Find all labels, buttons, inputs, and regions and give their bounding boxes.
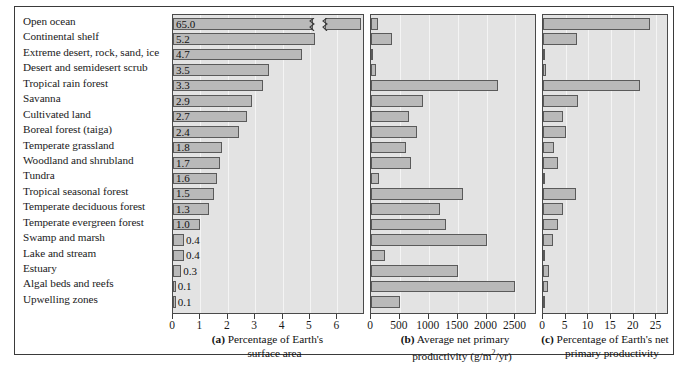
ecosystem-label: Woodland and shrubland	[15, 153, 170, 168]
bar-value-label: 65.0	[176, 19, 195, 31]
panel-b-caption-units-post: /yr)	[496, 350, 512, 362]
bar	[173, 281, 176, 293]
ecosystem-label: Boreal forest (taiga)	[15, 122, 170, 137]
gridline	[487, 15, 488, 313]
axis-tick-label: 2	[224, 319, 230, 332]
bar	[371, 234, 487, 246]
bar-value-label: 0.1	[178, 297, 192, 309]
axis-tick-label: 1	[197, 319, 203, 332]
bar-value-label: 2.7	[176, 111, 190, 123]
ecosystem-label-column: Open oceanContinental shelfExtreme deser…	[15, 14, 170, 307]
bar	[371, 33, 392, 45]
ecosystem-label: Savanna	[15, 91, 170, 106]
axis-tick-label: 1500	[445, 319, 468, 332]
ecosystem-label: Temperate grassland	[15, 138, 170, 153]
panel-a-caption: (a) Percentage of Earth's surface area	[165, 332, 370, 360]
bar-value-label: 1.0	[176, 219, 190, 231]
panel-b-caption-units-pre: productivity (g/m	[412, 350, 491, 362]
bar	[173, 296, 176, 308]
axis-tick-label: 500	[390, 319, 407, 332]
axis-tick-label: 4	[279, 319, 285, 332]
bar	[371, 173, 379, 185]
bar	[543, 111, 563, 123]
bar-value-label: 3.3	[176, 80, 190, 92]
bar-value-label: 1.5	[176, 188, 190, 200]
panel-a-caption-letter: (a)	[212, 333, 225, 345]
bar	[371, 203, 440, 215]
bar	[543, 219, 558, 231]
panel-a-surface-area: 65.05.24.73.53.32.92.72.41.81.71.61.51.3…	[172, 14, 364, 314]
panel-b-net-primary-productivity	[370, 14, 536, 314]
bar	[173, 33, 315, 45]
gridline	[515, 15, 516, 313]
axis-tick-label: 10	[582, 319, 594, 332]
bar-value-label: 3.5	[176, 65, 190, 77]
bar	[371, 126, 417, 138]
bar	[371, 95, 423, 107]
axis-break-zigzag-icon	[308, 18, 317, 31]
bar	[543, 296, 545, 308]
gridline	[458, 15, 459, 313]
ecosystem-label: Temperate deciduous forest	[15, 199, 170, 214]
bar	[543, 203, 563, 215]
bar-value-label: 1.6	[176, 173, 190, 185]
bar	[371, 49, 373, 61]
bar	[371, 142, 406, 154]
ecosystem-label: Tropical seasonal forest	[15, 184, 170, 199]
bar	[371, 219, 446, 231]
axis-tick-label: 5	[562, 319, 568, 332]
bar	[173, 265, 181, 277]
ecosystem-label: Lake and stream	[15, 246, 170, 261]
ecosystem-label: Tundra	[15, 168, 170, 183]
bar	[543, 173, 545, 185]
axis-tick-label: 2000	[474, 319, 497, 332]
bar-value-label: 0.1	[178, 281, 192, 293]
bar	[543, 126, 566, 138]
axis-tick-label: 0	[539, 319, 545, 332]
panel-a-plot-area: 65.05.24.73.53.32.92.72.41.81.71.61.51.3…	[173, 15, 363, 313]
panel-b-caption-line1: Average net primary	[417, 333, 510, 345]
bar-continuation	[325, 18, 361, 30]
axis-tick-label: 1000	[416, 319, 439, 332]
ecosystem-label: Estuary	[15, 261, 170, 276]
bar	[371, 157, 411, 169]
panel-c-axis: 0510152025	[542, 314, 668, 319]
ecosystem-label: Swamp and marsh	[15, 230, 170, 245]
axis-break-zigzag-icon	[321, 18, 330, 31]
gridline	[310, 15, 311, 313]
bar	[543, 64, 546, 76]
gridline	[611, 15, 612, 313]
bar	[371, 64, 376, 76]
ecosystem-label: Open ocean	[15, 14, 170, 29]
axis-tick-label: 15	[604, 319, 616, 332]
bar	[173, 49, 302, 61]
bar	[543, 234, 553, 246]
panel-a-axis: 0123456	[172, 314, 364, 319]
bar-value-label: 4.7	[176, 49, 190, 61]
bar-value-label: 2.4	[176, 127, 190, 139]
bar-value-label: 5.2	[176, 34, 190, 46]
panel-c-percentage-npp	[542, 14, 668, 314]
gridline	[634, 15, 635, 313]
figure-frame: Open oceanContinental shelfExtreme deser…	[14, 6, 674, 355]
bar	[371, 296, 400, 308]
bar	[371, 250, 385, 262]
bar-value-label: 1.7	[176, 158, 190, 170]
panel-c-caption: (c) Percentage of Earth's net primary pr…	[535, 332, 675, 360]
bar	[543, 142, 554, 154]
bar-value-label: 1.8	[176, 142, 190, 154]
axis-tick-label: 5	[306, 319, 312, 332]
ecosystem-label: Continental shelf	[15, 29, 170, 44]
axis-tick-label: 2500	[503, 319, 526, 332]
bar	[543, 80, 640, 92]
panel-b-axis: 05001000150020002500	[370, 314, 536, 319]
bar	[371, 281, 515, 293]
bar	[173, 234, 184, 246]
axis-tick-label: 0	[367, 319, 373, 332]
bar	[543, 157, 558, 169]
axis-tick-label: 3	[251, 319, 257, 332]
panel-a-caption-line1: Percentage of Earth's	[228, 333, 324, 345]
gridline	[656, 15, 657, 313]
bar-value-label: 0.4	[186, 235, 200, 247]
bar-value-label: 0.3	[183, 266, 197, 278]
